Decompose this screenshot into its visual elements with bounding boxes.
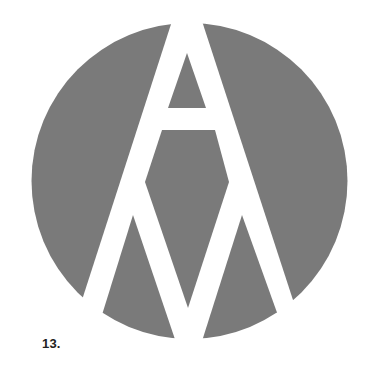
monogram-logo-icon (0, 0, 371, 379)
left-region (0, 0, 173, 300)
right-region (201, 0, 371, 300)
diamond (145, 130, 229, 308)
inner-triangle (168, 53, 206, 108)
figure-caption: 13. (42, 336, 61, 351)
